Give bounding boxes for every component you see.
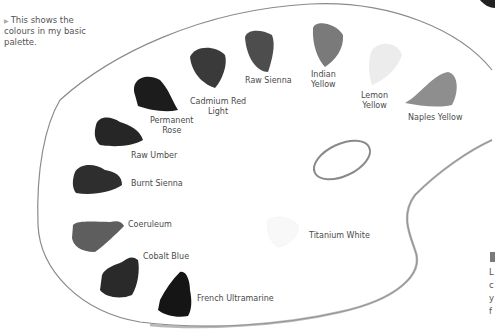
side-letter: y bbox=[489, 292, 495, 305]
label-titanium-white: Titanium White bbox=[309, 231, 370, 241]
swatch-naples-yellow bbox=[405, 72, 457, 106]
thumb-hole bbox=[308, 133, 376, 187]
swatch-raw-sienna bbox=[245, 31, 274, 72]
label-line: Rose bbox=[150, 126, 194, 136]
swatch-french-ultramarine bbox=[158, 272, 191, 317]
swatch-coeruleum bbox=[72, 221, 124, 252]
label-line: Yellow bbox=[311, 80, 336, 90]
label-indian-yellow: Indian Yellow bbox=[311, 70, 336, 90]
swatch-titanium-white bbox=[267, 217, 298, 247]
swatch-burnt-sienna bbox=[73, 165, 122, 194]
swatch-indian-yellow bbox=[313, 23, 343, 67]
label-line: Indian bbox=[311, 70, 336, 80]
label-line: Raw Umber bbox=[131, 151, 177, 161]
palette-illustration-page: ▶This shows the colours in my basic pale… bbox=[0, 0, 495, 331]
caption-marker-icon: ▶ bbox=[4, 17, 9, 24]
label-line: Naples Yellow bbox=[408, 113, 462, 123]
swatch-lemon-yellow bbox=[369, 44, 402, 85]
label-line: Coeruleum bbox=[128, 220, 172, 230]
label-line: Raw Sienna bbox=[245, 76, 292, 86]
label-line: Lemon bbox=[361, 91, 388, 101]
label-line: Light bbox=[190, 107, 246, 117]
swatch-raw-umber bbox=[95, 117, 143, 146]
label-cadmium-red-light: Cadmium Red Light bbox=[190, 97, 246, 117]
label-coeruleum: Coeruleum bbox=[128, 220, 172, 230]
side-panel-text: L c y f bbox=[489, 266, 495, 318]
label-line: Titanium White bbox=[309, 231, 370, 241]
figure-caption: ▶This shows the colours in my basic pale… bbox=[4, 15, 94, 48]
side-letter: c bbox=[489, 279, 495, 292]
label-naples-yellow: Naples Yellow bbox=[408, 113, 462, 123]
side-letter: L bbox=[489, 266, 495, 279]
label-line: Permanent bbox=[150, 116, 194, 126]
label-lemon-yellow: Lemon Yellow bbox=[361, 91, 388, 111]
label-french-ultramarine: French Ultramarine bbox=[197, 294, 274, 304]
label-line: Cobalt Blue bbox=[143, 252, 189, 262]
label-raw-umber: Raw Umber bbox=[131, 151, 177, 161]
label-line: French Ultramarine bbox=[197, 294, 274, 304]
palette-drawing bbox=[0, 0, 495, 331]
side-letter: f bbox=[489, 305, 495, 318]
swatch-cadmium-red-light bbox=[190, 48, 226, 88]
side-panel-marker bbox=[490, 252, 495, 262]
label-line: Yellow bbox=[361, 101, 388, 111]
caption-text: This shows the colours in my basic palet… bbox=[4, 15, 86, 47]
label-raw-sienna: Raw Sienna bbox=[245, 76, 292, 86]
corner-mark bbox=[480, 0, 495, 8]
label-permanent-rose: Permanent Rose bbox=[150, 116, 194, 136]
swatch-permanent-rose bbox=[134, 77, 178, 111]
label-line: Cadmium Red bbox=[190, 97, 246, 107]
label-cobalt-blue: Cobalt Blue bbox=[143, 252, 189, 262]
label-line: Burnt Sienna bbox=[131, 179, 183, 189]
label-burnt-sienna: Burnt Sienna bbox=[131, 179, 183, 189]
swatch-cobalt-blue bbox=[100, 257, 139, 297]
